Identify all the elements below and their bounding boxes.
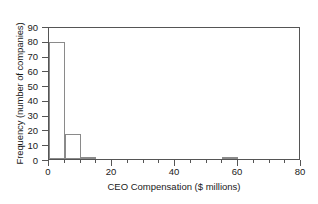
histogram-bar — [222, 157, 238, 159]
y-axis-tick-label: 0 — [0, 156, 38, 166]
x-axis-minor-tick — [269, 160, 270, 163]
y-axis-tick-label: 90 — [0, 23, 38, 33]
x-axis-minor-tick — [95, 160, 96, 163]
x-axis-tick-label: 0 — [28, 167, 68, 177]
y-axis-title: Frequency (number of companies) — [14, 9, 25, 179]
y-axis-tick-label: 20 — [0, 126, 38, 136]
plot-area — [48, 27, 300, 160]
x-axis-minor-tick — [64, 160, 65, 163]
x-axis-tick-label: 20 — [91, 167, 131, 177]
x-axis-minor-tick — [221, 160, 222, 163]
histogram-bar — [49, 42, 65, 159]
histogram-bar — [81, 157, 97, 159]
y-axis-tick-label: 70 — [0, 52, 38, 62]
x-axis-tick-label: 40 — [154, 167, 194, 177]
x-axis-minor-tick — [143, 160, 144, 163]
x-axis-tick-label: 60 — [217, 167, 257, 177]
x-axis-minor-tick — [206, 160, 207, 163]
y-axis-tick-label: 50 — [0, 82, 38, 92]
x-axis-minor-tick — [127, 160, 128, 163]
x-axis-minor-tick — [190, 160, 191, 163]
y-axis-tick-label: 30 — [0, 111, 38, 121]
y-axis-tick-label: 80 — [0, 37, 38, 47]
x-axis-title: CEO Compensation ($ millions) — [48, 181, 300, 192]
y-axis-tick-label: 40 — [0, 96, 38, 106]
histogram-figure: Frequency (number of companies) 01020304… — [0, 0, 318, 204]
bars-container — [49, 28, 299, 159]
x-axis-minor-tick — [158, 160, 159, 163]
x-axis-minor-tick — [253, 160, 254, 163]
y-axis-tick-label: 60 — [0, 67, 38, 77]
x-axis-minor-tick — [80, 160, 81, 163]
y-axis-tick-label: 10 — [0, 141, 38, 151]
x-axis-minor-tick — [284, 160, 285, 163]
histogram-bar — [65, 134, 81, 159]
x-axis-tick-label: 80 — [280, 167, 318, 177]
